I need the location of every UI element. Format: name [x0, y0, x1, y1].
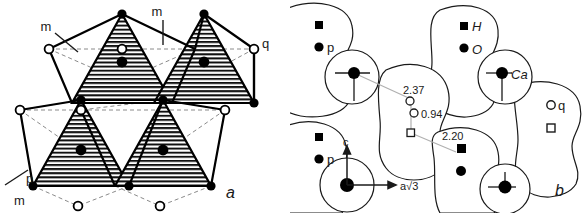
figure-container: m m m p q a: [0, 0, 587, 213]
open-circle-094: [410, 109, 418, 117]
filled-square-lower-center: [457, 144, 466, 153]
open-square-220: [407, 129, 415, 137]
axis-a-arrowhead: [388, 182, 396, 189]
open-circle-237: [406, 97, 414, 105]
label-p-upper: p: [327, 40, 334, 55]
filled-circle-p-lower: [314, 154, 323, 163]
label-m-lower-left: m: [14, 193, 25, 208]
filled-circle-p-upper: [314, 42, 323, 51]
cation-dot: [117, 57, 128, 68]
label-m-top: m: [152, 4, 163, 19]
filled-square-H: [460, 22, 468, 30]
panel-label-a: a: [226, 184, 235, 201]
panel-label-b: b: [555, 182, 564, 199]
panel-b: p p q H O Ca 2.37 0.94 2.20 c a√3 b: [290, 0, 587, 213]
cation-dot: [199, 57, 210, 68]
filled-circle-lower-center: [456, 166, 466, 176]
axis-label-a: a√3: [400, 180, 418, 192]
distance-label-220: 2.20: [442, 130, 463, 142]
open-square-right: [547, 124, 555, 132]
panel-a-drawing: m m m p q a: [0, 0, 294, 213]
tetra-face-hatched-4: [115, 100, 211, 186]
axis-label-c: c: [343, 136, 349, 148]
filled-square-upper-left: [315, 21, 323, 29]
panel-b-drawing: p p q H O Ca 2.37 0.94 2.20 c a√3 b: [290, 0, 587, 213]
label-p: p: [26, 171, 33, 186]
cation-dot: [76, 145, 87, 156]
cation-dot: [158, 145, 169, 156]
tetrahedra-network: [5, 9, 259, 210]
distance-label-237: 2.37: [403, 84, 424, 96]
legend-label-Ca: Ca: [511, 67, 528, 82]
label-q: q: [262, 36, 269, 51]
label-m-upper-left: m: [41, 19, 52, 34]
legend-label-H: H: [472, 19, 482, 34]
legend-label-O: O: [472, 42, 482, 57]
leader-m-lower-left: [5, 170, 28, 185]
label-q: q: [558, 98, 565, 113]
filled-circle-O: [459, 43, 468, 52]
distance-label-094: 0.94: [421, 108, 442, 120]
filled-square-lower-left: [315, 133, 323, 141]
panel-a: m m m p q a: [0, 0, 294, 213]
open-circle-q: [547, 101, 555, 109]
label-p-lower: p: [327, 152, 334, 167]
